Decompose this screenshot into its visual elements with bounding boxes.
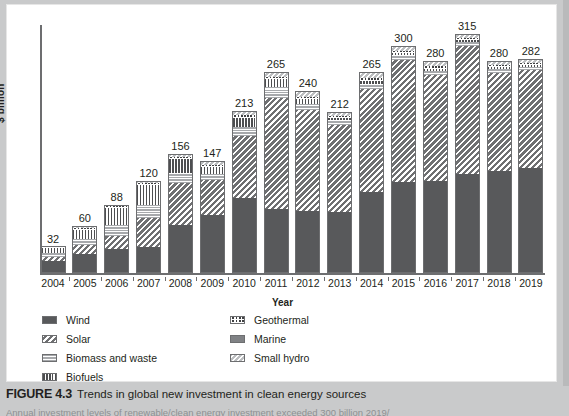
bar-stack[interactable] xyxy=(359,72,384,273)
bar-column[interactable]: 60 xyxy=(72,25,98,273)
bar-segment-biomass xyxy=(105,225,128,236)
bar-value-label: 88 xyxy=(111,191,123,203)
bar-column[interactable]: 88 xyxy=(104,25,130,273)
bar-segment-wind xyxy=(392,182,415,272)
bar-segment-solar xyxy=(519,70,542,168)
x-tick-label: 2016 xyxy=(422,277,448,289)
legend-item-biofuels[interactable]: Biofuels xyxy=(42,368,157,385)
bar-segment-wind xyxy=(488,171,511,272)
legend-swatch-geothermal-icon xyxy=(230,316,245,324)
legend-item-solar[interactable]: Solar xyxy=(42,330,157,347)
bar-segment-solar xyxy=(265,98,288,209)
x-axis-tick-labels: 2004200520062007200820092010201120122013… xyxy=(40,277,544,289)
bar-column[interactable]: 156 xyxy=(167,25,193,273)
bar-stack[interactable] xyxy=(200,161,225,273)
bar-stack[interactable] xyxy=(41,246,66,273)
bar-stack[interactable] xyxy=(327,112,352,273)
bar-stack[interactable] xyxy=(295,91,320,273)
bar-value-label: 156 xyxy=(171,140,189,152)
bar-column[interactable]: 120 xyxy=(136,25,162,273)
bar-segment-wind xyxy=(137,247,160,272)
bar-segment-solar xyxy=(392,60,415,182)
bar-stack[interactable] xyxy=(455,34,480,273)
x-tick-label: 2014 xyxy=(359,277,385,289)
y-axis-title: $ billion xyxy=(0,83,6,123)
legend-item-marine[interactable]: Marine xyxy=(230,330,309,347)
bar-column[interactable]: 315 xyxy=(454,25,480,273)
bar-stack[interactable] xyxy=(104,205,129,273)
bar-stack[interactable] xyxy=(518,59,543,273)
bar-segment-solar xyxy=(105,236,128,249)
legend-swatch-marine-icon xyxy=(230,335,245,343)
bar-segment-wind xyxy=(360,192,383,272)
bar-column[interactable]: 265 xyxy=(359,25,385,273)
legend-item-wind[interactable]: Wind xyxy=(42,311,157,328)
legend-item-biomass[interactable]: Biomass and waste xyxy=(42,349,157,366)
bar-segment-solar xyxy=(169,183,192,225)
bar-stack[interactable] xyxy=(423,61,448,273)
bar-value-label: 120 xyxy=(139,167,157,179)
x-axis-tick xyxy=(388,277,389,281)
bar-segment-biofuels xyxy=(169,159,192,173)
bar-value-label: 300 xyxy=(394,32,412,44)
bar-segment-solar xyxy=(424,75,447,181)
bar-stack[interactable] xyxy=(168,154,193,273)
legend-swatch-wind-icon xyxy=(42,316,57,324)
bar-column[interactable]: 280 xyxy=(422,25,448,273)
x-axis-tick xyxy=(356,277,357,281)
bar-column[interactable]: 265 xyxy=(263,25,289,273)
chart-legend: WindSolarBiomass and wasteBiofuels Geoth… xyxy=(40,311,510,377)
figure-number: FIGURE 4.3 xyxy=(6,387,72,401)
x-axis-tick xyxy=(228,277,229,281)
bar-segment-wind xyxy=(105,249,128,272)
bar-segment-wind xyxy=(328,212,351,272)
x-axis-tick xyxy=(196,277,197,281)
bar-segment-biomass xyxy=(169,173,192,183)
bar-value-label: 315 xyxy=(458,20,476,32)
x-tick-label: 2011 xyxy=(263,277,289,289)
bar-stack[interactable] xyxy=(232,111,257,273)
bar-stack[interactable] xyxy=(487,61,512,273)
bar-segment-wind xyxy=(73,254,96,272)
bar-column[interactable]: 32 xyxy=(40,25,66,273)
bar-value-label: 265 xyxy=(267,58,285,70)
bar-segment-solar xyxy=(201,180,224,215)
bar-stack[interactable] xyxy=(72,226,97,273)
legend-item-smallhydro[interactable]: Small hydro xyxy=(230,349,309,366)
bar-column[interactable]: 147 xyxy=(199,25,225,273)
bar-column[interactable]: 280 xyxy=(486,25,512,273)
bar-stack[interactable] xyxy=(264,72,289,273)
bar-value-label: 60 xyxy=(79,212,91,224)
x-axis-tick xyxy=(419,277,420,281)
bar-segment-wind xyxy=(519,168,542,272)
x-tick-label: 2010 xyxy=(231,277,257,289)
bar-column[interactable]: 240 xyxy=(295,25,321,273)
bar-value-label: 213 xyxy=(235,97,253,109)
legend-label: Marine xyxy=(254,333,286,345)
legend-label: Small hydro xyxy=(254,352,309,364)
x-tick-label: 2007 xyxy=(136,277,162,289)
figure-caption-text: Trends in global new investment in clean… xyxy=(77,388,366,400)
x-tick-label: 2018 xyxy=(486,277,512,289)
bar-column[interactable]: 212 xyxy=(327,25,353,273)
page-right-edge xyxy=(563,0,569,386)
x-axis-tick xyxy=(260,277,261,281)
x-tick-label: 2005 xyxy=(72,277,98,289)
figure-subcaption: Annual investment levels of renewable/cl… xyxy=(6,407,557,416)
bar-stack[interactable] xyxy=(391,46,416,273)
bar-segment-wind xyxy=(233,198,256,272)
bar-segment-wind xyxy=(296,211,319,272)
bar-column[interactable]: 213 xyxy=(231,25,257,273)
x-tick-label: 2008 xyxy=(167,277,193,289)
legend-item-geothermal[interactable]: Geothermal xyxy=(230,311,309,328)
bar-stack[interactable] xyxy=(136,181,161,273)
bar-segment-solar xyxy=(137,218,160,247)
bar-column[interactable]: 300 xyxy=(390,25,416,273)
x-axis-tick xyxy=(101,277,102,281)
bar-series-container: 3260881201561472132652402122653002803152… xyxy=(40,25,544,273)
bar-segment-wind xyxy=(169,225,192,272)
bar-column[interactable]: 282 xyxy=(518,25,544,273)
bar-segment-solar xyxy=(296,110,319,211)
x-tick-label: 2009 xyxy=(199,277,225,289)
plot-area: 3260881201561472132652402122653002803152… xyxy=(40,25,544,273)
